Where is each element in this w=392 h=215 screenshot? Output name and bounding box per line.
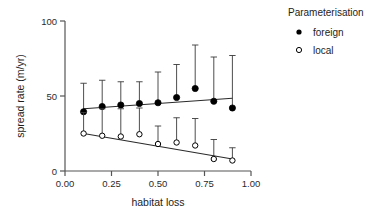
legend-label-local: local <box>313 45 334 56</box>
y-tick-label-0: 0 <box>52 166 57 177</box>
data-point-local-0 <box>81 131 86 136</box>
legend-label-foreign: foreign <box>313 27 344 38</box>
data-point-foreign-8 <box>229 105 235 111</box>
y-tick-label-50: 50 <box>46 91 57 102</box>
legend-marker-local-icon <box>296 47 301 52</box>
legend-title: Parameterisation <box>288 7 364 18</box>
data-point-local-4 <box>155 141 160 146</box>
x-tick-label-0.50: 0.50 <box>149 178 168 189</box>
data-point-local-8 <box>230 158 235 163</box>
legend-marker-foreign-icon <box>296 29 301 34</box>
legend: Parameterisation foreign local <box>288 7 364 56</box>
x-axis-title: habitat loss <box>131 196 184 208</box>
y-axis-title: spread rate (m/yr) <box>14 54 26 137</box>
data-point-local-6 <box>193 143 198 148</box>
data-point-foreign-6 <box>192 85 198 91</box>
data-point-local-3 <box>137 132 142 137</box>
data-point-foreign-3 <box>136 100 142 106</box>
x-axis: 0.00 0.25 0.50 0.75 1.00 habitat loss <box>56 171 261 208</box>
x-tick-label-1.00: 1.00 <box>242 178 261 189</box>
x-tick-label-0.25: 0.25 <box>102 178 121 189</box>
chart-figure: 100 50 0 spread rate (m/yr) 0.00 0.25 0.… <box>0 0 392 215</box>
data-point-local-1 <box>100 133 105 138</box>
data-point-foreign-2 <box>118 102 124 108</box>
series-foreign <box>80 45 235 115</box>
series-local <box>80 108 235 163</box>
data-point-local-2 <box>118 134 123 139</box>
x-tick-label-0.00: 0.00 <box>56 178 75 189</box>
data-point-foreign-4 <box>155 100 161 106</box>
data-series-layer <box>80 45 235 163</box>
x-tick-label-0.75: 0.75 <box>195 178 214 189</box>
data-point-foreign-7 <box>211 98 217 104</box>
y-tick-label-100: 100 <box>41 16 57 27</box>
data-point-local-7 <box>211 156 216 161</box>
data-point-local-5 <box>174 140 179 145</box>
scatter-plot-canvas: 100 50 0 spread rate (m/yr) 0.00 0.25 0.… <box>0 0 392 215</box>
y-axis: 100 50 0 spread rate (m/yr) <box>14 16 65 177</box>
data-point-foreign-5 <box>174 94 180 100</box>
